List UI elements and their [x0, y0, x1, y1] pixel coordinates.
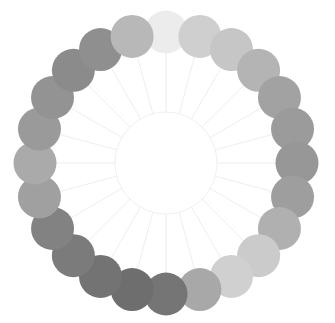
spoke-line — [69, 107, 122, 138]
radial-node-ring — [0, 0, 335, 323]
diagram-canvas — [0, 0, 335, 323]
hub-circle — [115, 112, 217, 214]
spoke-line — [179, 212, 195, 271]
spoke-line — [137, 212, 153, 271]
spoke-line — [202, 84, 245, 127]
spoke-line — [58, 134, 117, 150]
spoke-line — [179, 55, 195, 114]
spoke-line — [87, 84, 130, 127]
spoke-line — [215, 176, 274, 192]
spoke-line — [210, 107, 263, 138]
node-circle[interactable] — [111, 15, 154, 58]
spoke-line — [87, 199, 130, 242]
spoke-line — [210, 189, 263, 220]
spoke-line — [215, 134, 274, 150]
spoke-line — [58, 176, 117, 192]
spoke-line — [110, 66, 141, 119]
spoke-line — [110, 207, 141, 260]
spoke-line — [137, 55, 153, 114]
spoke-line — [69, 189, 122, 220]
spoke-line — [202, 199, 245, 242]
spoke-line — [192, 66, 223, 119]
spoke-line — [192, 207, 223, 260]
